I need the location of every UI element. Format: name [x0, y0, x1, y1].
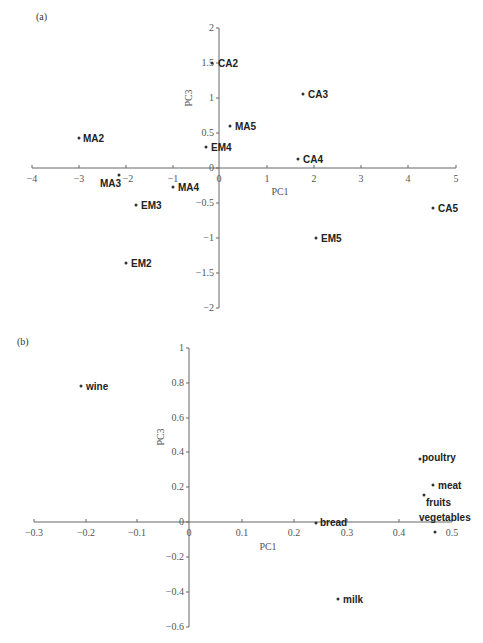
x-tick-label: 1	[265, 173, 270, 184]
y-tick-label: 1	[179, 342, 184, 353]
x-tick-label: −2	[123, 173, 134, 184]
x-tick-label: −0.3	[25, 527, 43, 538]
data-point-poultry: poultry	[419, 452, 457, 463]
y-tick-label: −0.6	[166, 621, 184, 632]
x-tick-label: −0.2	[77, 527, 95, 538]
svg-text:CA4: CA4	[303, 154, 323, 165]
x-tick-label: −0.1	[128, 527, 146, 538]
panel-a-label: (a)	[36, 11, 47, 23]
data-point-ca5: CA5	[432, 203, 459, 214]
y-tick-label: 0.8	[172, 377, 185, 388]
data-point-wine: wine	[80, 381, 109, 392]
svg-text:EM2: EM2	[131, 258, 152, 269]
x-tick-label: 3	[359, 173, 364, 184]
svg-text:MA2: MA2	[83, 133, 105, 144]
points-a: MA2 CA2 CA3 MA5 EM4 CA4 MA3 MA4 EM3 CA5 …	[78, 58, 459, 269]
data-point-ca4: CA4	[297, 154, 324, 165]
panel-b: (b) −0.3 −0.2 −0.1 0 0.1 0.2 0.3 0.4 0.5	[17, 336, 471, 632]
data-point-meat: meat	[432, 480, 463, 491]
y-tick-label: 0.2	[172, 481, 185, 492]
data-point-milk: milk	[337, 594, 364, 605]
svg-text:MA4: MA4	[178, 182, 200, 193]
x-tick-label: 5	[454, 173, 459, 184]
svg-text:EM4: EM4	[211, 142, 232, 153]
y-tick-label: 0	[179, 516, 184, 527]
x-axis-title-a: PC1	[271, 186, 288, 197]
x-tick-label: 0.2	[288, 527, 301, 538]
y-tick-label: −0.2	[166, 551, 184, 562]
y-tick-label: −0.4	[166, 586, 184, 597]
svg-text:MA3: MA3	[100, 178, 122, 189]
x-tick-label: 0	[217, 173, 222, 184]
svg-text:EM3: EM3	[141, 200, 162, 211]
panel-a: (a) −4 −3 −2 −1 0 1 2 3 4 5	[27, 11, 459, 313]
panel-b-label: (b)	[17, 336, 29, 348]
y-tick-label: 1	[209, 92, 214, 103]
y-tick-label: −0.5	[196, 197, 214, 208]
y-axis-title-b: PC3	[155, 428, 166, 445]
svg-text:meat: meat	[438, 480, 462, 491]
x-tick-label: 2	[312, 173, 317, 184]
x-tick-label: −3	[74, 173, 85, 184]
points-b: wine poultry meat fruits vegetables brea…	[80, 381, 472, 605]
x-tick-label: 0.5	[446, 527, 459, 538]
y-tick-label: 0.6	[172, 412, 185, 423]
y-tick-label: −1.5	[196, 267, 214, 278]
data-point-fruits: fruits	[423, 494, 452, 509]
data-point-ma5: MA5	[229, 121, 257, 132]
svg-text:poultry: poultry	[422, 452, 456, 463]
svg-text:MA5: MA5	[235, 121, 257, 132]
svg-text:fruits: fruits	[426, 497, 451, 508]
x-tick-label: 0.3	[341, 527, 354, 538]
svg-text:EM5: EM5	[321, 233, 342, 244]
x-tick-label: 0.1	[236, 527, 249, 538]
x-tick-labels-b: −0.3 −0.2 −0.1 0 0.1 0.2 0.3 0.4 0.5	[25, 527, 458, 538]
x-tick-label: −4	[27, 173, 38, 184]
data-point-em4: EM4	[205, 142, 233, 153]
svg-text:CA3: CA3	[308, 89, 328, 100]
svg-text:CA2: CA2	[218, 58, 238, 69]
svg-text:CA5: CA5	[438, 203, 458, 214]
y-tick-label: −2	[203, 302, 214, 313]
svg-text:milk: milk	[343, 594, 363, 605]
data-point-bread: bread	[315, 517, 348, 528]
x-tick-label: 4	[406, 173, 411, 184]
data-point-ma3: MA3	[100, 174, 122, 190]
x-tick-label: 0.4	[393, 527, 406, 538]
data-point-ca3: CA3	[302, 89, 329, 100]
svg-text:bread: bread	[320, 517, 347, 528]
x-tick-label: 0	[187, 527, 192, 538]
data-point-ca2: CA2	[211, 58, 239, 69]
x-tick-label: −1	[168, 173, 179, 184]
svg-text:vegetables: vegetables	[419, 512, 471, 523]
y-tick-label: 0.5	[202, 127, 215, 138]
data-point-em5: EM5	[315, 233, 343, 244]
y-tick-label: 2	[209, 22, 214, 33]
y-tick-label: 0.4	[172, 446, 185, 457]
figure: (a) −4 −3 −2 −1 0 1 2 3 4 5	[0, 0, 483, 643]
y-tick-label: −1	[203, 232, 214, 243]
y-tick-label: 0	[209, 162, 214, 173]
x-axis-title-b: PC1	[259, 541, 276, 552]
y-tick-labels-b: 1 0.8 0.6 0.4 0.2 0 −0.2 −0.4 −0.6	[166, 342, 184, 632]
data-point-em2: EM2	[125, 258, 153, 269]
data-point-ma2: MA2	[78, 133, 105, 144]
svg-text:wine: wine	[85, 381, 109, 392]
data-point-em3: EM3	[135, 200, 163, 211]
y-axis-title-a: PC3	[183, 89, 194, 106]
x-tick-labels-a: −4 −3 −2 −1 0 1 2 3 4 5	[27, 173, 459, 184]
